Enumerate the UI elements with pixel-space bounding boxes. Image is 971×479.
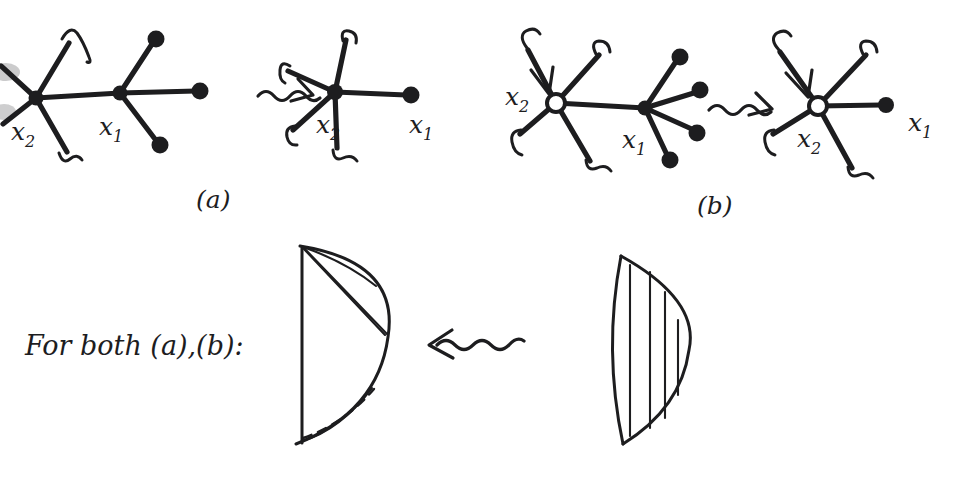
tree-before-a: x2 x1 [1,30,209,161]
tree-after-a: x2 x1 [280,31,433,161]
fan-triangulated-disk [296,246,389,444]
label-x1-before-b-sub: 1 [636,140,646,159]
leaf-dot-x1-after-b [878,97,894,113]
label-x1-before-b-letter: x [622,125,636,154]
panel-label-a: (a) [196,185,230,214]
vertex-x2-after-a [327,84,343,100]
vertex-x2-before-b [547,94,565,112]
label-x1-after-a-sub: 1 [423,125,433,144]
leaf-dot-x1-a-b [672,49,689,66]
parallel-chord-disk [612,256,690,444]
tree-before-b: x2 x1 [505,29,709,171]
disk-right-left-arc [612,256,623,444]
label-x2-after-b-sub: 2 [810,139,821,158]
label-x2-after-a-letter: x [316,110,330,139]
disk-left-chord-4 [302,388,372,441]
disk-left-chord-1 [303,247,376,286]
disk-left-arc [296,246,389,444]
leg-x1-down-a [120,93,158,143]
label-x1-after-a: x1 [409,110,433,144]
label-x2-after-a-sub: 2 [329,125,340,144]
leaf-dot-x1-after-a [403,87,420,104]
label-x1-before-b: x1 [622,125,646,159]
label-x2-before-a: x2 [11,117,35,151]
handdrawn-figure: x2 x1 x2 x1 (a) [0,0,971,479]
label-x1-after-b-sub: 1 [922,123,932,142]
leg-x1-up-a [120,41,154,93]
label-x2-after-b: x2 [797,124,821,158]
leaf-dot-x1-c-b [689,125,706,142]
leg-x2-downright-a [36,98,67,152]
label-x1-before-a-sub: 1 [113,127,123,146]
hook-after-upright-b [861,41,877,54]
vertex-x2-before-a [29,91,44,106]
squiggle-arrow-b [709,93,772,115]
leg-x2-upright-a [36,43,69,98]
hook-after-upleft-b [773,31,791,50]
hook-after-up-a [342,31,356,43]
figure-canvas: x2 x1 x2 x1 (a) [0,0,971,479]
hook-x2-upleft-b [522,29,540,48]
label-x2-before-b-sub: 2 [518,97,529,116]
vertex-x1-before-b [638,101,653,116]
hook-x2-upright-b [594,41,610,54]
leaf-dot-x1-down-a [152,137,169,154]
vertex-x1-before-a [113,86,128,101]
hook-after-down-a [333,150,357,161]
vertex-x2-after-b [809,97,827,115]
label-x2-after-b-letter: x [797,124,811,153]
label-x1-after-b: x1 [908,108,932,142]
leaf-dot-x1-up-a [148,31,165,48]
label-x2-before-b: x2 [505,82,529,116]
leaf-dot-x1-right-a [192,83,209,100]
leg-x1-right-a [120,91,196,93]
panel-label-b: (b) [697,191,733,220]
leg-after-right-a [335,92,406,95]
spine-edge-b [556,103,645,108]
for-both-caption: For both (a),(b): [24,330,244,361]
spine-edge-a [36,93,120,98]
squiggle-arrow-bottom [429,330,524,358]
disk-left-chord-3 [303,248,385,335]
leaf-dot-x1-b-b [692,82,709,99]
label-x1-before-a-letter: x [99,112,113,141]
label-x1-after-b-letter: x [908,108,922,137]
label-x1-before-a: x1 [99,112,123,146]
hook-x2-downright-a [59,153,82,161]
label-x2-before-a-letter: x [11,117,25,146]
disk-right-arc [621,256,690,444]
leaf-dot-x1-d-b [662,152,679,169]
label-x2-before-b-letter: x [505,82,519,111]
label-x1-after-a-letter: x [409,110,423,139]
tree-after-b: x2 x1 [765,31,933,178]
label-x2-before-a-sub: 2 [24,132,35,151]
